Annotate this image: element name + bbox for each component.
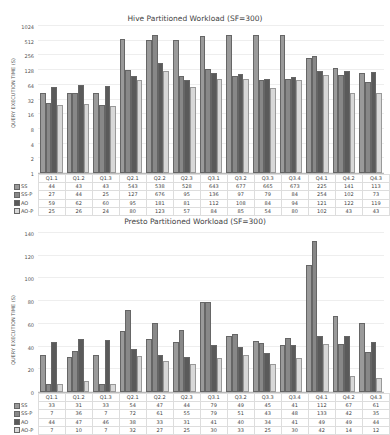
data-cell: 95 <box>173 191 200 199</box>
bar <box>323 344 329 392</box>
data-cell: 31 <box>65 402 92 410</box>
category-label: Q1.3 <box>92 394 119 402</box>
data-cell: 34 <box>254 418 281 426</box>
data-cell: 43 <box>254 410 281 418</box>
data-cell: 141 <box>335 183 362 191</box>
bar <box>163 361 169 392</box>
bar-group <box>40 234 63 392</box>
data-cell: 94 <box>281 199 308 207</box>
data-cell: 225 <box>308 183 335 191</box>
category-label: Q4.1 <box>308 175 335 183</box>
bar-group <box>200 27 223 173</box>
data-cell: 36 <box>65 410 92 418</box>
bar-group <box>173 234 196 392</box>
data-cell: 46 <box>92 418 119 426</box>
bar <box>190 364 196 392</box>
data-cell: 42 <box>335 410 362 418</box>
bar-group <box>146 234 169 392</box>
bar <box>350 93 356 173</box>
bar <box>243 79 249 173</box>
data-cell: 7 <box>92 426 119 434</box>
bar <box>217 79 223 173</box>
bar-group <box>93 27 116 173</box>
y-tick-label: 1024 <box>14 24 34 30</box>
category-label: Q2.1 <box>119 394 146 402</box>
chart-title: Presto Partitioned Workload (SF=300) <box>0 217 390 226</box>
data-cell: 33 <box>92 402 119 410</box>
bar-group <box>67 27 90 173</box>
data-cell: 7 <box>38 426 65 434</box>
legend-swatch-icon <box>14 419 20 425</box>
data-cell: 51 <box>227 410 254 418</box>
data-cell: 30 <box>281 426 308 434</box>
data-cell: 112 <box>200 199 227 207</box>
bar <box>323 75 329 173</box>
y-tick-label: 16 <box>14 112 34 118</box>
data-cell: 538 <box>146 183 173 191</box>
category-label: Q4.3 <box>362 175 389 183</box>
category-label: Q1.2 <box>65 175 92 183</box>
bar-group <box>226 234 249 392</box>
data-cell: 48 <box>281 410 308 418</box>
bar <box>163 71 169 173</box>
hive-chart: Hive Partitioned Workload (SF=300) QUERY… <box>0 0 390 215</box>
data-cell: 30 <box>200 426 227 434</box>
data-cell: 122 <box>335 199 362 207</box>
data-cell: 25 <box>173 426 200 434</box>
data-cell: 25 <box>92 191 119 199</box>
data-cell: 44 <box>362 418 389 426</box>
data-cell: 102 <box>335 191 362 199</box>
bar-group <box>359 27 382 173</box>
bar-group <box>280 27 303 173</box>
legend-entry: SS-P <box>14 410 38 418</box>
y-tick-label: 2 <box>14 156 34 162</box>
bar <box>270 88 276 173</box>
category-label: Q3.2 <box>227 175 254 183</box>
data-cell: 72 <box>119 410 146 418</box>
bar-group <box>200 234 223 392</box>
data-cell: 73 <box>362 191 389 199</box>
category-label: Q1.1 <box>38 175 65 183</box>
data-cell: 7 <box>92 410 119 418</box>
data-cell: 44 <box>173 402 200 410</box>
data-cell: 41 <box>281 402 308 410</box>
data-cell: 33 <box>146 418 173 426</box>
data-cell: 60 <box>92 199 119 207</box>
legend-swatch-icon <box>14 208 20 214</box>
data-cell: 79 <box>200 402 227 410</box>
plot-area <box>38 234 384 393</box>
data-cell: 41 <box>281 418 308 426</box>
data-cell: 95 <box>119 199 146 207</box>
data-cell: 47 <box>65 418 92 426</box>
category-label: Q4.3 <box>362 394 389 402</box>
data-cell: 59 <box>38 199 65 207</box>
data-cell: 27 <box>146 426 173 434</box>
data-cell: 43 <box>92 183 119 191</box>
category-label: Q1.2 <box>65 394 92 402</box>
data-cell: 97 <box>227 191 254 199</box>
category-label: Q3.4 <box>281 394 308 402</box>
data-cell: 49 <box>335 418 362 426</box>
bar <box>376 93 382 173</box>
y-tick-label: 8 <box>14 127 34 133</box>
data-cell: 528 <box>173 183 200 191</box>
data-table: Q1.1Q1.2Q1.3Q2.1Q2.2Q2.3Q3.1Q3.2Q3.3Q3.4… <box>14 393 390 435</box>
data-cell: 79 <box>200 410 227 418</box>
data-table: Q1.1Q1.2Q1.3Q2.1Q2.2Q2.3Q3.1Q3.2Q3.3Q3.4… <box>14 174 390 216</box>
legend-entry: AO <box>14 418 38 426</box>
data-cell: 27 <box>38 191 65 199</box>
bar <box>57 384 63 392</box>
plot-area <box>38 27 384 174</box>
data-cell: 113 <box>362 183 389 191</box>
data-cell: 44 <box>38 183 65 191</box>
bar-group <box>173 27 196 173</box>
data-cell: 643 <box>200 183 227 191</box>
bar <box>270 364 276 392</box>
bar-group <box>253 234 276 392</box>
data-cell: 254 <box>308 191 335 199</box>
data-cell: 31 <box>173 418 200 426</box>
y-tick-label: 60 <box>14 322 34 328</box>
bar <box>110 106 116 173</box>
category-label: Q3.2 <box>227 394 254 402</box>
data-cell: 673 <box>281 183 308 191</box>
